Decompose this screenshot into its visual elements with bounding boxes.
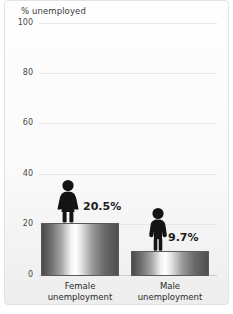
category-label-female-line1: Female (41, 281, 119, 292)
value-label-male: 9.7% (168, 231, 199, 244)
male-figure-icon (145, 207, 171, 251)
value-label-female: 20.5% (83, 200, 121, 213)
y-tick-80: 80 (7, 68, 33, 77)
category-label-male-line2: unemployment (131, 292, 209, 303)
female-figure-icon (55, 179, 81, 223)
category-label-male-line1: Male (131, 281, 209, 292)
plot-area: 100 80 60 40 20 0 20.5% 9.7% Female (5, 1, 229, 305)
y-tick-20: 20 (7, 219, 33, 228)
gridline-60 (39, 123, 217, 124)
category-label-female-line2: unemployment (41, 292, 119, 303)
bar-female-unemployment (41, 223, 119, 276)
gridline-80 (39, 73, 217, 74)
gridline-40 (39, 174, 217, 175)
bar-male-unemployment (131, 251, 209, 276)
category-label-female: Female unemployment (41, 281, 119, 303)
y-tick-0: 0 (7, 270, 33, 279)
y-tick-60: 60 (7, 118, 33, 127)
chart-panel: % unemployed 100 80 60 40 20 0 (4, 0, 229, 305)
y-tick-40: 40 (7, 169, 33, 178)
y-tick-100: 100 (7, 18, 33, 27)
gridline-100 (39, 23, 217, 24)
category-label-male: Male unemployment (131, 281, 209, 303)
